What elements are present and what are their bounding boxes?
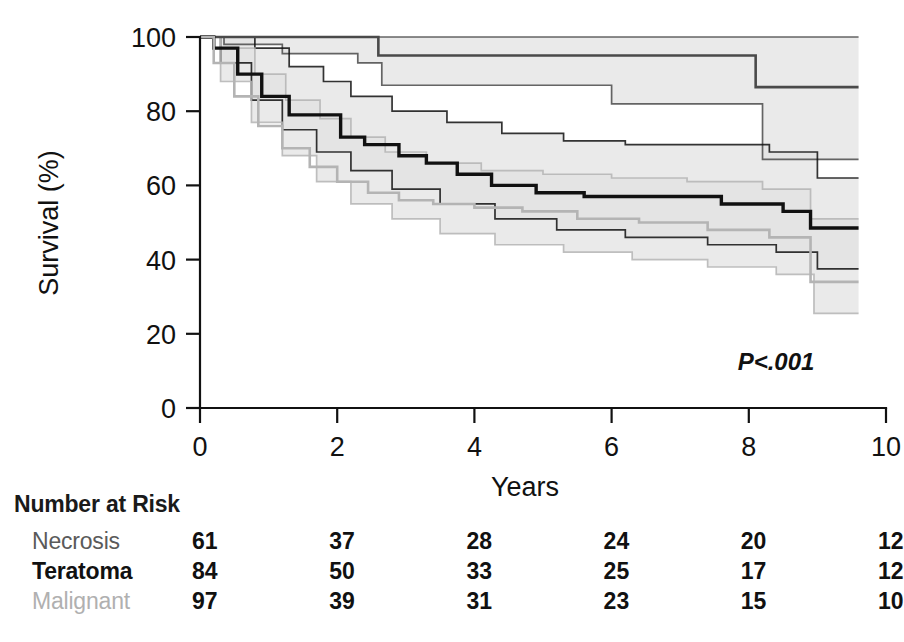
y-axis-ticks: 020406080100 <box>131 23 200 424</box>
y-axis-label: Survival (%) <box>34 150 64 296</box>
x-tick-label-8: 8 <box>741 432 756 462</box>
p-value-annotation: P<.001 <box>738 348 815 375</box>
y-tick-label-100: 100 <box>131 23 176 53</box>
x-tick-label-0: 0 <box>192 432 207 462</box>
y-tick-label-20: 20 <box>146 320 176 350</box>
y-tick-label-40: 40 <box>146 246 176 276</box>
y-tick-label-60: 60 <box>146 171 176 201</box>
y-tick-label-80: 80 <box>146 97 176 127</box>
survival-chart: 020406080100 0246810 Survival (%) Years … <box>0 0 904 642</box>
confidence-bands <box>200 37 859 313</box>
x-tick-label-4: 4 <box>467 432 482 462</box>
y-tick-label-0: 0 <box>161 394 176 424</box>
x-tick-label-2: 2 <box>330 432 345 462</box>
x-axis-ticks: 0246810 <box>192 408 901 462</box>
x-tick-label-6: 6 <box>604 432 619 462</box>
x-tick-label-10: 10 <box>871 432 901 462</box>
x-axis-label: Years <box>491 472 559 502</box>
